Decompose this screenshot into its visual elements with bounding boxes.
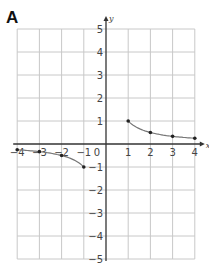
data-point (126, 119, 130, 123)
y-tick-label: −3 (88, 208, 103, 219)
y-tick-label: −2 (88, 185, 103, 196)
x-tick-label: 0 (94, 147, 100, 158)
y-tick-label: −5 (88, 254, 103, 265)
y-axis-arrow-icon (104, 16, 109, 21)
x-tick-label: 2 (147, 147, 153, 158)
data-point (15, 148, 19, 152)
reciprocal-graph: xy−4−3−2−101234−5−4−3−2−112345 (0, 0, 209, 268)
data-point (171, 135, 175, 139)
y-tick-label: 1 (97, 116, 103, 127)
x-tick-label: 3 (169, 147, 175, 158)
x-tick-label: −1 (76, 147, 91, 158)
x-tick-label: 4 (192, 147, 198, 158)
y-tick-label: 5 (97, 24, 103, 35)
data-point (193, 136, 197, 140)
function-curve (17, 150, 84, 167)
x-axis-label: x (206, 141, 209, 150)
y-tick-label: 2 (97, 93, 103, 104)
y-tick-label: 3 (97, 70, 103, 81)
y-axis-label: y (108, 14, 114, 23)
data-point (82, 165, 86, 169)
x-tick-label: 1 (125, 147, 131, 158)
function-curve (128, 121, 195, 138)
data-point (149, 131, 153, 135)
y-tick-label: 4 (97, 47, 103, 58)
x-axis-arrow-icon (200, 142, 205, 147)
y-tick-label: −4 (88, 231, 103, 242)
data-point (38, 150, 42, 154)
y-tick-label: −1 (88, 162, 103, 173)
data-point (60, 154, 64, 158)
